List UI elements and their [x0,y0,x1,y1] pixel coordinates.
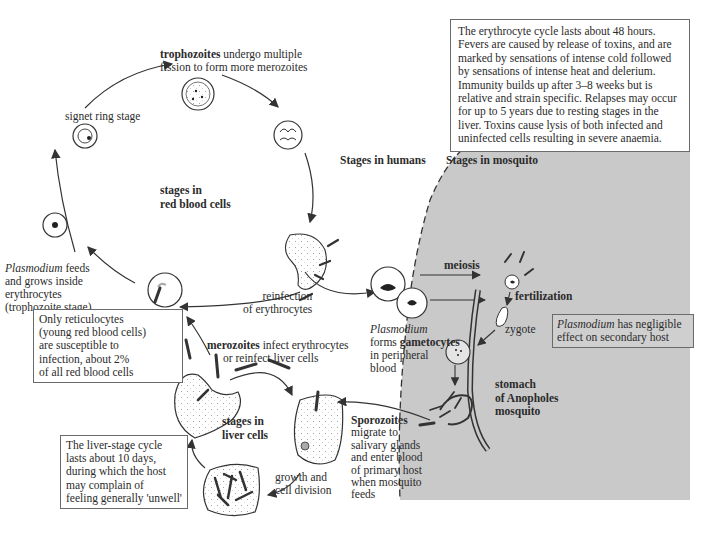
arrow-schizont-to-release [305,153,313,222]
sporozoites-line: of primary host [351,464,422,476]
label-stages-in-liver: stages in liver cells [222,414,268,442]
liver-box-line: during which the host [66,465,182,478]
liver-label-line2: liver cells [222,429,268,441]
reticulocyte-line: Only reticulocytes [39,313,177,326]
liver-cell-with-sporozoite [294,392,342,464]
secondary-host-line2: effect on secondary host [557,331,669,343]
label-gametocytes: Plasmodium forms gametocytes in peripher… [370,323,460,375]
label-zygote: zygote [505,323,536,336]
reticulocyte-info-box: Only reticulocytes (young red blood cell… [33,309,183,383]
label-stomach-anopholes: stomach of Anopholes mosquito [495,378,559,419]
plasmodium-life-cycle-diagram: The erythrocyte cycle lasts about 48 hou… [0,0,716,553]
merozoite-entering-cell [148,273,182,307]
signet-ring-cell [73,124,97,148]
feeds-line3: erythrocytes [5,288,62,300]
label-plasmodium-feeds: Plasmodium feeds and grows inside erythr… [5,262,92,314]
liver-cell-dividing [203,464,259,515]
sporozoites-bold: Sporozoites [351,414,408,426]
feeds-line1: feeds [63,262,90,274]
label-merozoites: merozoites infect erythrocytes or reinfe… [207,339,349,365]
growth-line1: growth and [275,471,327,483]
merozoites-line2: or reinfect liver cells [207,352,318,364]
stomach-line3: mosquito [495,405,540,417]
rbc-label-line2: red blood cells [160,198,231,210]
sporozoites-line: and enter blood [351,451,423,463]
liver-stage-info-box: The liver-stage cycle lasts about 10 day… [60,435,188,509]
erythrocyte-cycle-info-text: The erythrocyte cycle lasts about 48 hou… [458,25,677,144]
merozoites-bold: merozoites [207,339,260,351]
arrow-trophozoite-stage-to-feeds [88,247,135,283]
label-trophozoites: trophozoites undergo multiple fission to… [160,48,308,74]
label-stages-in-mosquito: Stages in mosquito [446,154,538,167]
stomach-line2: of Anopholes [495,392,559,404]
label-reinfection: reinfection of erythrocytes [243,290,312,316]
label-growth-cell-division: growth and cell division [275,471,332,497]
reticulocyte-line: are susceptible to [39,339,177,352]
feeds-line2: and grows inside [5,275,83,287]
liver-box-line: lasts about 10 days, [66,452,182,465]
arrow-trophozoite-to-schizont [222,75,278,107]
label-meiosis: meiosis [444,259,480,272]
arrow-merozoites-reinfect-liver [230,373,292,395]
label-signet-ring-stage: signet ring stage [65,110,140,123]
label-stages-in-humans: Stages in humans [340,154,426,167]
liver-label-line1: stages in [222,415,264,427]
rbc-label-line1: stages in [160,184,202,196]
gametocytes-line3: in peripheral [370,349,428,361]
feeds-italic: Plasmodium [5,262,63,274]
gametocytes-line4: blood [370,362,396,374]
gametocytes-italic: Plasmodium [370,323,428,335]
trophozoites-text-1: undergo multiple [220,48,302,60]
reinfection-line1: reinfection [262,290,312,302]
liver-box-line: The liver-stage cycle [66,439,182,452]
growth-line2: cell division [275,484,332,496]
gametocytes-line2-pre: forms [370,336,400,348]
sporozoites-line: migrate to [351,426,398,438]
trophozoite-feeding-cell [43,213,67,237]
stomach-line1: stomach [495,378,536,390]
reticulocyte-line: of all red blood cells [39,366,177,379]
trophozoite-multiple-fission-cell [182,78,214,110]
label-sporozoites: Sporozoites migrate to salivary glands a… [351,414,423,501]
trophozoites-bold: trophozoites [160,48,220,60]
reticulocyte-line: (young red blood cells) [39,326,177,339]
sporozoites-line: salivary glands [351,439,420,451]
arrow-ring-to-trophozoite [85,64,172,108]
gametocytes-bold: gametocytes [400,336,460,348]
reticulocyte-line: infection, about 2% [39,353,177,366]
schizont-cell [274,121,302,149]
secondary-host-info-box: Plasmodium has negligible effect on seco… [552,314,694,348]
secondary-host-line1: has negligible [615,318,682,330]
trophozoites-text-2: fission to form more merozoites [160,61,308,73]
secondary-host-italic: Plasmodium [557,318,615,330]
sporozoites-line: feeds [351,488,375,500]
reinfection-line2: of erythrocytes [243,303,312,315]
merozoites-line1: infect erythrocytes [260,339,349,351]
label-fertilization: fertilization [515,290,572,303]
liver-box-line: may complain of [66,479,182,492]
liver-box-line: feeling generally 'unwell' [66,492,182,505]
arrow-dividing-to-rupture [192,440,205,468]
sporozoites-line: when mosquito [351,476,422,488]
erythrocyte-cycle-info-box: The erythrocyte cycle lasts about 48 hou… [450,19,690,152]
label-stages-in-rbc: stages in red blood cells [160,183,231,211]
